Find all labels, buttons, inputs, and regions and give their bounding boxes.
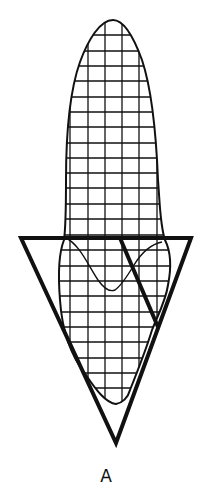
diagram-figure xyxy=(0,0,212,501)
inner-curve xyxy=(66,238,162,291)
figure-label: A xyxy=(0,466,212,486)
inverted-triangle xyxy=(21,238,191,443)
